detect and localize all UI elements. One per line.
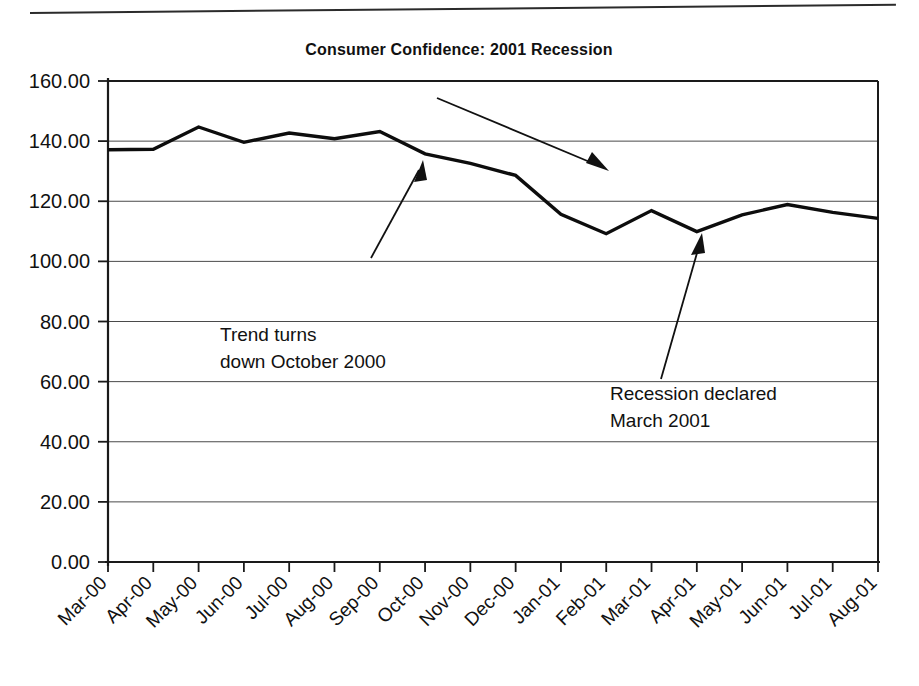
x-tick-label-May-00: May-00: [142, 572, 202, 632]
x-tick-label-Feb-01: Feb-01: [552, 572, 609, 629]
y-tick-label-20.00: 20.00: [40, 491, 90, 513]
chart-page: Consumer Confidence: 2001 Recession 0.00…: [0, 0, 919, 686]
y-tick-label-60.00: 60.00: [40, 371, 90, 393]
y-tick-label-80.00: 80.00: [40, 311, 90, 333]
x-tick-label-Sep-00: Sep-00: [324, 572, 382, 630]
downward-trend-arrow: [437, 98, 609, 171]
recession-declared-annotation-line-1: Recession declared: [610, 383, 777, 404]
x-tick-label-Jun-01: Jun-01: [734, 572, 790, 628]
y-tick-label-120.00: 120.00: [29, 190, 90, 212]
x-tick-label-Mar-00: Mar-00: [53, 572, 110, 629]
y-tick-label-160.00: 160.00: [29, 70, 90, 92]
x-tick-label-Aug-00: Aug-00: [279, 572, 337, 630]
trend-down-annotation-line-1: Trend turns: [220, 324, 316, 345]
x-tick-label-Aug-01: Aug-01: [823, 572, 881, 630]
x-tick-label-Nov-00: Nov-00: [415, 572, 473, 630]
trend-down-leader-arrow: [371, 160, 427, 258]
y-axis-ticks-group: 0.0020.0040.0060.0080.00100.00120.00140.…: [29, 70, 109, 573]
y-tick-label-140.00: 140.00: [29, 130, 90, 152]
recession-declared-leader-arrow: [661, 233, 705, 379]
recession-declared-annotation: Recession declared March 2001: [610, 383, 777, 431]
x-tick-label-Mar-01: Mar-01: [597, 572, 654, 629]
trend-down-annotation-line-2: down October 2000: [220, 351, 386, 372]
y-tick-label-40.00: 40.00: [40, 431, 90, 453]
y-tick-label-100.00: 100.00: [29, 250, 90, 272]
trend-down-annotation: Trend turns down October 2000: [220, 324, 386, 372]
recession-declared-annotation-line-2: March 2001: [610, 410, 710, 431]
chart-title: Consumer Confidence: 2001 Recession: [305, 41, 613, 58]
x-tick-label-May-01: May-01: [685, 572, 745, 632]
x-axis-ticks-group: Mar-00Apr-00May-00Jun-00Jul-00Aug-00Sep-…: [53, 562, 880, 632]
gridlines-group: [108, 141, 878, 502]
x-tick-label-Jun-00: Jun-00: [191, 572, 247, 628]
consumer-confidence-line-chart: Consumer Confidence: 2001 Recession 0.00…: [0, 0, 919, 686]
series-line-consumer-confidence: [108, 127, 878, 234]
y-tick-label-0.00: 0.00: [51, 551, 90, 573]
x-tick-label-Dec-00: Dec-00: [460, 572, 518, 630]
